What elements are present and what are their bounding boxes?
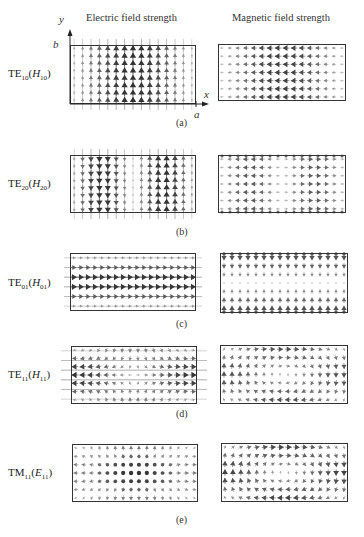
y-axis-arrow-icon: [68, 29, 73, 36]
magnetic-field-panel-d: [220, 345, 348, 404]
mode-name: TE01: [8, 276, 28, 288]
magnetic-field-panel-c: [220, 253, 348, 313]
electric-field-panel-b: [70, 155, 196, 213]
mode-alt: E11: [35, 466, 48, 478]
mode-name: TE20: [8, 177, 28, 189]
mode-label-b: TE20(H20): [8, 177, 51, 192]
electric-field-panel-c: [70, 253, 196, 311]
magnetic-field-panel-b: [218, 155, 346, 213]
mode-label-c: TE01(H01): [8, 276, 51, 291]
electric-field-panel-e: [72, 444, 198, 502]
mode-label-e: TM11(E11): [8, 466, 52, 481]
x-axis-arrow-icon: [202, 102, 209, 107]
panel-caption-d: (d): [176, 408, 188, 419]
mode-alt: H20: [32, 177, 47, 189]
mode-name: TE11: [8, 368, 28, 380]
mode-label-d: TE11(H11): [8, 368, 50, 383]
coordinate-axes: [0, 0, 364, 130]
panel-caption-b: (b): [176, 226, 188, 237]
electric-field-panel-d: [71, 346, 197, 404]
mode-alt: H11: [32, 368, 47, 380]
panel-caption-e: (e): [176, 514, 187, 525]
waveguide-frame: [71, 254, 196, 311]
panel-caption-c: (c): [176, 318, 187, 329]
mode-alt: H01: [32, 276, 47, 288]
mode-name: TM11: [8, 466, 31, 478]
magnetic-field-panel-e: [221, 443, 348, 502]
